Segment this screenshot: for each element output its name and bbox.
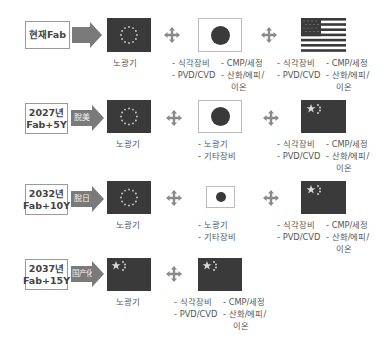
interchange-icon — [166, 190, 182, 206]
transition-arrow: 国产化 — [71, 261, 104, 287]
equipment-list-2: - CMP/세정 - 산화/에피/ 이온 — [326, 219, 369, 255]
equipment-list-2: - CMP/세정 - 산화/에피/ 이온 — [326, 138, 369, 174]
china-flag-icon — [107, 258, 151, 291]
transition-arrow: 脫日 — [71, 186, 104, 212]
equipment-list: - 식각장비 - PVD/CVD — [277, 57, 320, 81]
interchange-icon — [263, 190, 279, 206]
eu-flag-icon — [107, 181, 151, 214]
equipment-list: - 식각장비 - PVD/CVD — [277, 138, 320, 162]
flag-caption: 노광기 — [116, 219, 140, 231]
label-line1: 현재Fab — [29, 29, 66, 41]
us-flag-icon — [301, 18, 346, 52]
japan-flag-small-icon — [206, 186, 235, 208]
timeline-label-2027: 2027년 Fab+5Y — [25, 103, 68, 134]
eu-flag-icon — [107, 100, 151, 133]
equipment-list: - 노광기 - 기타장비 — [198, 138, 236, 162]
equipment-list: - 노광기 - 기타장비 — [198, 219, 236, 243]
equipment-list: - 식각장비 - PVD/CVD — [277, 219, 320, 243]
equipment-list: - 식각장비 - PVD/CVD — [172, 57, 215, 81]
china-flag-icon — [301, 100, 346, 133]
equipment-list-2: - CMP/세정 - 산화/에피/ 이온 — [221, 57, 264, 93]
flag-caption: 노광기 — [113, 57, 137, 69]
equipment-list: - 식각장비 - PVD/CVD — [174, 296, 217, 320]
timeline-label-2032: 2032년 Fab+10Y — [25, 184, 68, 215]
arrow-label: 脫日 — [71, 191, 93, 207]
arrow-label: 脫美 — [71, 110, 93, 126]
japan-flag-icon — [198, 18, 242, 52]
flag-caption: 노광기 — [116, 296, 140, 308]
equipment-list-2: - CMP/세정 - 산화/에피/ 이온 — [326, 57, 369, 93]
interchange-icon — [166, 110, 182, 126]
arrow-label — [72, 27, 91, 43]
eu-flag-icon — [107, 18, 151, 52]
china-flag-icon — [301, 181, 346, 214]
interchange-icon — [261, 27, 277, 43]
flag-caption: 노광기 — [116, 138, 140, 150]
transition-arrow: 脫美 — [71, 105, 104, 131]
timeline-label-2037: 2037년 Fab+15Y — [25, 259, 68, 290]
interchange-icon — [166, 266, 182, 282]
interchange-icon — [263, 110, 279, 126]
transition-arrow — [72, 22, 102, 48]
china-flag-icon — [198, 258, 242, 291]
arrow-label: 国产化 — [71, 266, 93, 282]
japan-flag-icon — [198, 100, 242, 133]
equipment-list-2: - CMP/세정 - 산화/에피/ 이온 — [223, 296, 266, 332]
interchange-icon — [164, 27, 180, 43]
timeline-label-current: 현재Fab — [25, 21, 70, 49]
